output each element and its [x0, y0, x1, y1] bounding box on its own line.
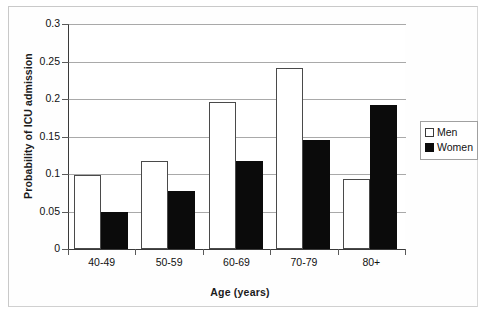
legend-label: Women: [437, 142, 473, 153]
figure-root: Probability of ICU admission 0.30.250.20…: [0, 0, 494, 323]
bar-men-80+: [343, 179, 370, 249]
bar-women-50-59: [168, 191, 195, 249]
y-axis-tick: [62, 24, 69, 25]
y-axis-tick: [62, 212, 69, 213]
y-axis-tick: [62, 174, 69, 175]
x-axis-tick: [270, 249, 271, 255]
legend-label: Men: [437, 127, 457, 138]
y-axis-tick: [62, 249, 69, 250]
x-axis-title: Age (years): [60, 286, 420, 298]
x-axis-tick-label: 80+: [331, 256, 411, 268]
bar-women-70-79: [303, 140, 330, 249]
legend-swatch-women-icon: [425, 143, 434, 152]
y-axis-tick: [62, 137, 69, 138]
bar-men-50-59: [141, 161, 168, 250]
legend-swatch-men-icon: [425, 128, 434, 137]
y-axis-tick-labels: 0.30.250.20.150.10.050: [12, 0, 60, 323]
legend: MenWomen: [420, 121, 478, 160]
y-axis-tick-label: 0.05: [16, 206, 60, 217]
bar-men-70-79: [276, 68, 303, 250]
legend-item-women: Women: [425, 140, 473, 155]
x-axis-line: [68, 249, 405, 250]
x-axis-tick: [405, 249, 406, 255]
x-axis-tick: [203, 249, 204, 255]
gridline: [69, 137, 406, 138]
bar-men-40-49: [74, 175, 101, 249]
y-axis-tick-label: 0.25: [16, 56, 60, 67]
x-axis-tick: [338, 249, 339, 255]
bar-men-60-69: [209, 102, 236, 249]
bar-women-40-49: [101, 212, 128, 249]
gridline: [69, 24, 406, 25]
y-axis-tick-label: 0.15: [16, 131, 60, 142]
y-axis-tick-label: 0.2: [16, 93, 60, 104]
y-axis-tick: [62, 99, 69, 100]
y-axis-tick: [62, 62, 69, 63]
bar-women-60-69: [236, 161, 263, 249]
x-axis-tick: [135, 249, 136, 255]
y-axis-tick-label: 0: [16, 243, 60, 254]
y-axis-tick-label: 0.1: [16, 168, 60, 179]
y-axis-tick-label: 0.3: [16, 18, 60, 29]
gridline: [69, 62, 406, 63]
gridline: [69, 99, 406, 100]
bar-women-80+: [370, 105, 397, 249]
legend-item-men: Men: [425, 125, 473, 140]
